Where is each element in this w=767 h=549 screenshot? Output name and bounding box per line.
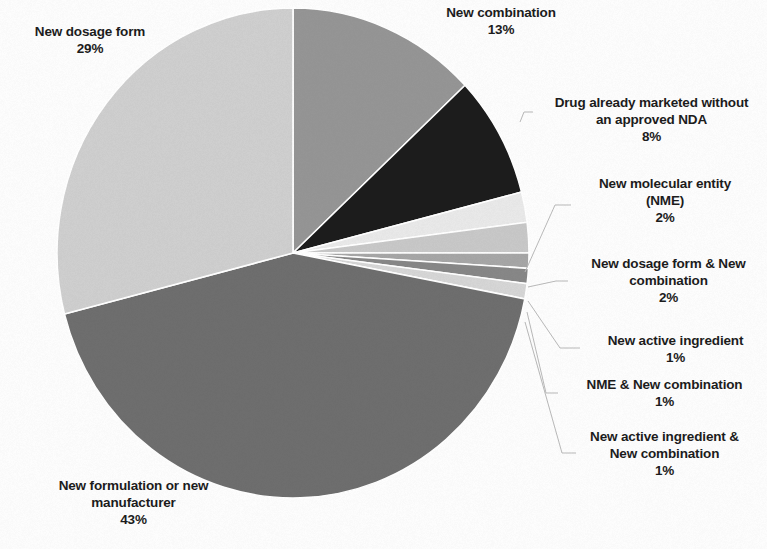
slice-label-text: New active ingredient [608,333,744,348]
slice-label-text-line2: an approved NDA [596,112,707,127]
slice-label-new-formulation-or-new-manufacturer: New formulation or new manufacturer 43% [26,478,241,529]
slice-label-percent: 13% [404,22,598,39]
leader-line-ndf-nc [528,281,568,287]
slice-label-new-dosage-form: New dosage form 29% [0,24,180,58]
slice-label-text-line2: New combination [610,446,720,461]
slice-label-new-dosage-form-and-new-combination: New dosage form & New combination 2% [570,256,767,307]
slice-label-text-line1: New molecular entity [599,176,731,191]
slice-label-text-line1: New active ingredient & [590,429,739,444]
slice-label-text-line2: manufacturer [91,495,175,510]
slice-label-text-line2: combination [629,273,708,288]
pie-slices-group [57,8,529,498]
slice-label-percent: 29% [0,41,180,58]
slice-label-text: New combination [446,5,556,20]
slice-label-text-line1: New formulation or new [59,478,209,493]
slice-label-percent: 1% [584,350,767,367]
slice-label-percent: 1% [562,394,767,411]
slice-label-drug-already-marketed: Drug already marketed without an approve… [536,95,767,146]
slice-label-new-molecular-entity: New molecular entity (NME) 2% [575,176,755,227]
slice-label-nme-and-new-combination: NME & New combination 1% [562,377,767,411]
slice-label-percent: 2% [575,210,755,227]
slice-label-new-active-ingredient: New active ingredient 1% [584,333,767,367]
slice-label-text-line1: New dosage form & New [591,256,745,271]
slice-label-text-line1: Drug already marketed without [555,95,749,110]
slice-label-new-combination: New combination 13% [404,5,598,39]
leader-line-nme [525,205,571,272]
leader-line-nme-nc [527,312,558,393]
leader-line-drug-already [520,112,533,122]
pie-chart-figure: New dosage form 29% New combination 13% … [0,0,767,549]
leader-line-new-active-ingredient [528,301,580,348]
slice-label-percent: 2% [570,290,767,307]
slice-label-percent: 1% [562,463,767,480]
slice-label-percent: 8% [536,129,767,146]
slice-label-percent: 43% [26,512,241,529]
slice-label-text: NME & New combination [587,377,743,392]
slice-label-new-active-ingredient-and-new-combination: New active ingredient & New combination … [562,429,767,480]
slice-label-text: New dosage form [35,24,145,39]
slice-label-text-line2: (NME) [646,193,684,208]
